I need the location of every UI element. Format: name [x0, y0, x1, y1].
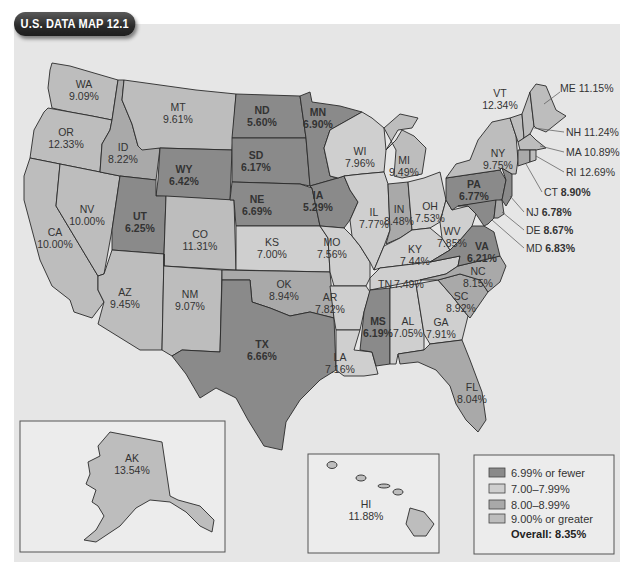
svg-text:WY: WY	[176, 163, 193, 175]
svg-text:MN: MN	[310, 106, 326, 118]
svg-text:6.17%: 6.17%	[241, 161, 271, 173]
svg-text:7.56%: 7.56%	[317, 248, 347, 260]
svg-text:LA: LA	[334, 351, 347, 363]
svg-text:7.16%: 7.16%	[325, 363, 355, 375]
state-WY[interactable]	[156, 148, 232, 200]
svg-text:UT: UT	[133, 210, 148, 222]
svg-text:MS: MS	[370, 315, 386, 327]
svg-text:8.15%: 8.15%	[463, 277, 493, 289]
svg-text:SD: SD	[249, 149, 264, 161]
svg-text:6.77%: 6.77%	[459, 190, 489, 202]
svg-text:7.53%: 7.53%	[415, 212, 445, 224]
alaska-inset: AK 13.54%	[20, 421, 225, 552]
svg-text:6.66%: 6.66%	[247, 350, 277, 362]
svg-text:CT 8.90%: CT 8.90%	[544, 186, 591, 198]
svg-text:12.33%: 12.33%	[48, 138, 84, 150]
state-HI-kauai[interactable]	[327, 462, 337, 469]
hawaii-inset: HI 11.88%	[308, 454, 439, 553]
svg-text:GA: GA	[433, 316, 448, 328]
legend-overall: Overall: 8.35%	[511, 528, 586, 540]
svg-text:HI: HI	[361, 498, 372, 510]
svg-text:9.61%: 9.61%	[163, 113, 193, 125]
state-HI-maui[interactable]	[393, 489, 403, 495]
legend-swatch-low	[489, 468, 505, 477]
legend-swatch-7	[489, 484, 505, 493]
svg-text:KY: KY	[408, 243, 422, 255]
svg-text:9.07%: 9.07%	[175, 300, 205, 312]
svg-text:NE: NE	[250, 193, 265, 205]
svg-text:RI 12.69%: RI 12.69%	[566, 166, 615, 178]
legend-label-low: 6.99% or fewer	[511, 467, 585, 479]
svg-text:MI: MI	[398, 154, 410, 166]
svg-text:IN: IN	[394, 203, 405, 215]
state-HI-oahu[interactable]	[356, 475, 366, 481]
svg-text:AL: AL	[402, 315, 415, 327]
svg-text:6.25%: 6.25%	[125, 222, 155, 234]
legend-label-9: 9.00% or greater	[511, 513, 593, 525]
svg-text:10.00%: 10.00%	[37, 238, 73, 250]
svg-text:ND: ND	[254, 104, 270, 116]
svg-text:9.75%: 9.75%	[483, 159, 513, 171]
state-RI[interactable]	[530, 150, 536, 162]
svg-text:7.85%: 7.85%	[437, 237, 467, 249]
legend-swatch-9	[489, 514, 505, 523]
legend-label-7: 7.00–7.99%	[511, 483, 570, 495]
svg-text:VT: VT	[493, 87, 507, 99]
svg-text:6.19%: 6.19%	[363, 327, 393, 339]
svg-text:MD 6.83%: MD 6.83%	[526, 242, 576, 254]
svg-text:9.49%: 9.49%	[389, 166, 419, 178]
svg-text:NC: NC	[470, 265, 486, 277]
svg-text:OK: OK	[276, 278, 291, 290]
svg-text:6.42%: 6.42%	[169, 175, 199, 187]
svg-text:7.05%: 7.05%	[393, 327, 423, 339]
svg-text:MA 10.89%: MA 10.89%	[566, 146, 620, 158]
svg-text:6.69%: 6.69%	[242, 205, 272, 217]
svg-text:FL: FL	[466, 381, 478, 393]
svg-text:6.90%: 6.90%	[303, 118, 333, 130]
svg-text:NV: NV	[80, 203, 95, 215]
svg-text:8.04%: 8.04%	[457, 393, 487, 405]
svg-text:OR: OR	[58, 126, 74, 138]
svg-text:11.31%: 11.31%	[183, 240, 218, 252]
svg-text:NJ 6.78%: NJ 6.78%	[526, 206, 572, 218]
svg-text:AK: AK	[125, 452, 139, 464]
state-CT[interactable]	[518, 150, 530, 166]
svg-text:NH 11.24%: NH 11.24%	[566, 126, 619, 138]
svg-text:WA: WA	[76, 78, 93, 90]
state-DE[interactable]	[494, 200, 504, 218]
svg-text:WI: WI	[354, 145, 367, 157]
svg-text:5.60%: 5.60%	[247, 116, 277, 128]
svg-text:6.21%: 6.21%	[467, 252, 497, 264]
svg-text:12.34%: 12.34%	[482, 99, 518, 111]
svg-text:ID: ID	[118, 141, 129, 153]
svg-text:IA: IA	[313, 189, 324, 201]
svg-text:7.49%: 7.49%	[394, 278, 424, 290]
svg-text:CA: CA	[48, 226, 63, 238]
svg-text:8.92%: 8.92%	[446, 302, 476, 314]
svg-text:NM: NM	[182, 288, 198, 300]
svg-text:PA: PA	[467, 178, 481, 190]
svg-text:CO: CO	[192, 228, 208, 240]
legend: 6.99% or fewer 7.00–7.99% 8.00–8.99% 9.0…	[474, 455, 614, 554]
svg-text:8.48%: 8.48%	[384, 215, 414, 227]
state-HI-molokai[interactable]	[378, 484, 390, 488]
svg-text:MO: MO	[324, 236, 341, 248]
svg-text:7.82%: 7.82%	[315, 303, 345, 315]
svg-text:SC: SC	[454, 290, 469, 302]
legend-label-8: 8.00–8.99%	[511, 499, 570, 511]
svg-text:AZ: AZ	[118, 286, 132, 298]
svg-text:5.29%: 5.29%	[303, 201, 333, 213]
svg-text:13.54%: 13.54%	[114, 464, 150, 476]
us-map: WA9.09% OR12.33% CA10.00% NV10.00% ID8.2…	[0, 0, 628, 569]
svg-text:9.45%: 9.45%	[110, 298, 140, 310]
svg-text:AR: AR	[323, 291, 338, 303]
svg-text:9.09%: 9.09%	[69, 90, 99, 102]
svg-text:KS: KS	[265, 236, 279, 248]
svg-text:7.44%: 7.44%	[400, 255, 430, 267]
svg-text:OH: OH	[422, 200, 438, 212]
svg-text:TX: TX	[255, 338, 268, 350]
svg-text:VA: VA	[475, 240, 489, 252]
svg-text:7.96%: 7.96%	[345, 157, 375, 169]
svg-text:7.00%: 7.00%	[257, 248, 287, 260]
svg-text:NY: NY	[491, 147, 506, 159]
